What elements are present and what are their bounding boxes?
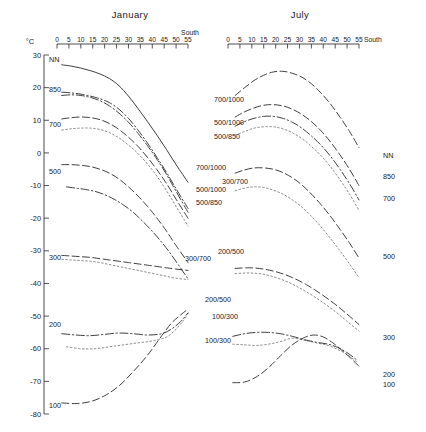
x-axis-tick-label: 45 <box>332 36 340 43</box>
chart-series-100 <box>62 311 186 404</box>
chart-series-850 <box>235 105 359 186</box>
series-label-200-500: 200/500 <box>218 247 244 256</box>
y-axis-tick-label: -60 <box>30 344 41 353</box>
x-axis-tick-label: 0 <box>226 36 230 43</box>
x-axis-tick-label: 5 <box>238 36 242 43</box>
series-label-right-850: 850 <box>383 172 395 181</box>
series-label-right-200: 200 <box>383 370 395 379</box>
chart-series-300b <box>235 273 359 331</box>
series-label-right-300: 300 <box>383 333 395 342</box>
x-axis-tick-label: 40 <box>320 36 328 43</box>
series-label-right-nn: NN <box>383 151 393 160</box>
chart-series-500 <box>62 165 188 263</box>
series-label-left-700: 700 <box>49 120 61 129</box>
series-label-700-1000: 700/1000 <box>196 163 226 172</box>
series-label-left-850: 850 <box>49 85 61 94</box>
x-axis-tick-label: 35 <box>137 36 145 43</box>
x-axis-tick-label: 0 <box>55 36 59 43</box>
y-axis-unit-label: °C <box>26 37 35 46</box>
x-axis-tick-label: 55 <box>184 36 192 43</box>
labels-layer: 3020100-10-20-30-40-50-60-70-80°C0510152… <box>26 9 395 419</box>
chart-series-200 <box>233 332 357 360</box>
series-label-right-700: 700 <box>383 194 395 203</box>
series-label-left-200: 200 <box>49 320 61 329</box>
series-label-700-1000: 700/1000 <box>214 95 244 104</box>
series-label-left-300: 300 <box>49 253 61 262</box>
series-label-left-500: 500 <box>49 167 61 176</box>
chart-series-700b <box>235 127 359 211</box>
curves-layer <box>62 65 359 404</box>
chart-canvas: 3020100-10-20-30-40-50-60-70-80°C0510152… <box>0 0 426 432</box>
x-axis-south-label: South <box>364 36 382 43</box>
chart-series-100-300 <box>233 338 357 362</box>
panel-title-january: January <box>112 9 149 20</box>
series-label-left-100: 100 <box>49 401 61 410</box>
series-label-left-nn: NN <box>49 55 59 64</box>
x-axis-tick-label: 20 <box>101 36 109 43</box>
series-label-500-850: 500/850 <box>196 198 222 207</box>
y-axis-tick-label: 20 <box>33 83 41 92</box>
x-axis-tick-label: 30 <box>296 36 304 43</box>
series-label-100-300: 100/300 <box>212 312 238 321</box>
series-label-right-500: 500 <box>383 252 395 261</box>
y-axis-tick-label: -20 <box>30 214 41 223</box>
chart-series-500b <box>235 187 359 278</box>
x-axis-tick-label: 50 <box>172 36 180 43</box>
panel-title-july: July <box>291 9 310 20</box>
x-axis-tick-label: 55 <box>355 36 363 43</box>
chart-series-300 <box>62 255 188 270</box>
chart-series-500-1000 <box>62 128 188 226</box>
series-label-300-700: 300/700 <box>185 254 211 263</box>
x-axis-south-label: South <box>181 29 199 36</box>
y-axis-tick-label: -70 <box>30 377 41 386</box>
chart-series-500-850 <box>67 187 188 279</box>
chart-series-850 <box>62 92 188 208</box>
x-axis-tick-label: 35 <box>308 36 316 43</box>
y-axis-tick-label: -30 <box>30 246 41 255</box>
chart-series-100 <box>233 335 359 383</box>
chart-series-200-500 <box>67 313 188 348</box>
chart-series-700 <box>62 117 188 218</box>
series-label-100-300: 100/300 <box>205 336 231 345</box>
chart-series-500 <box>235 168 359 258</box>
y-axis-tick-label: 0 <box>37 149 41 158</box>
chart-series-NN <box>235 71 359 147</box>
chart-series-NN <box>62 65 188 182</box>
y-axis-tick-label: -80 <box>30 410 41 419</box>
chart-series-700 <box>235 116 359 200</box>
x-axis-tick-label: 10 <box>77 36 85 43</box>
chart-series-200 <box>62 313 188 336</box>
x-axis-tick-label: 25 <box>113 36 121 43</box>
x-axis-tick-label: 20 <box>272 36 280 43</box>
y-axis-tick-label: -50 <box>30 312 41 321</box>
x-axis-tick-label: 30 <box>125 36 133 43</box>
series-label-500-850: 500/850 <box>214 132 240 141</box>
x-axis-tick-label: 45 <box>161 36 169 43</box>
figure-root: 3020100-10-20-30-40-50-60-70-80°C0510152… <box>0 0 426 432</box>
y-axis-tick-label: -40 <box>30 279 41 288</box>
series-label-200-500: 200/500 <box>205 295 231 304</box>
series-label-500-1000: 500/1000 <box>214 118 244 127</box>
y-axis-tick-label: 30 <box>33 51 41 60</box>
x-axis-tick-label: 50 <box>343 36 351 43</box>
x-axis-tick-label: 25 <box>284 36 292 43</box>
series-label-500-1000: 500/1000 <box>196 185 226 194</box>
x-axis-tick-label: 40 <box>149 36 157 43</box>
x-axis-tick-label: 10 <box>248 36 256 43</box>
x-axis-tick-label: 15 <box>89 36 97 43</box>
x-axis-tick-label: 15 <box>260 36 268 43</box>
y-axis-tick-label: -10 <box>30 181 41 190</box>
axes-layer <box>44 44 359 414</box>
x-axis-tick-label: 5 <box>67 36 71 43</box>
series-label-right-100: 100 <box>383 380 395 389</box>
y-axis-tick-label: 10 <box>33 116 41 125</box>
